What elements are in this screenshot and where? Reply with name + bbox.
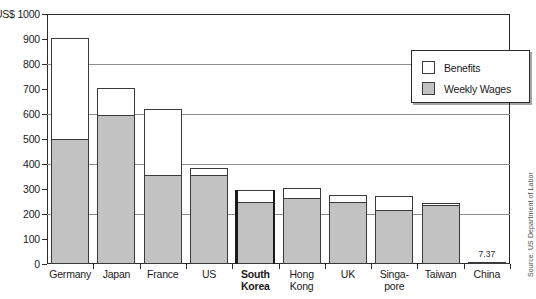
x-axis-label-hong-kong: HongKong: [279, 269, 325, 292]
x-axis-label-line: South: [232, 269, 278, 281]
x-axis-label-line: Korea: [232, 281, 278, 293]
bar-japan: [97, 88, 135, 264]
bar-highlight-edge-left: [235, 190, 237, 265]
bar-segment-weekly-wages: [283, 198, 321, 264]
bar-segment-benefits: [375, 196, 413, 210]
legend-item-weekly-wages: Weekly Wages: [422, 78, 529, 99]
legend-label-benefits: Benefits: [444, 62, 480, 74]
y-axis-label-600: 600: [23, 108, 40, 120]
legend-swatch-benefits-icon: [422, 61, 435, 74]
x-axis-label-uk: UK: [325, 269, 371, 281]
y-axis-label-100: 100: [23, 233, 40, 245]
bar-segment-benefits: [144, 109, 182, 175]
bar-segment-benefits: [97, 88, 135, 116]
bar-us: [190, 168, 228, 264]
chart-container: 0100200300400500600700800900US$ 1000 7.3…: [0, 0, 536, 299]
x-axis-label-japan: Japan: [93, 269, 139, 281]
bar-segment-weekly-wages: [329, 202, 367, 265]
bar-segment-benefits: [51, 38, 89, 139]
y-axis-label-300: 300: [23, 183, 40, 195]
x-axis-label-france: France: [140, 269, 186, 281]
y-axis-label-500: 500: [23, 133, 40, 145]
x-axis-label-line: Japan: [93, 269, 139, 281]
x-axis-label-us: US: [186, 269, 232, 281]
bar-segment-weekly-wages: [51, 139, 89, 264]
bar-segment-weekly-wages: [422, 205, 460, 264]
y-axis-label-0: 0: [34, 258, 40, 270]
x-axis-label-china: China: [464, 269, 510, 281]
y-axis-label-1000: US$ 1000: [0, 8, 40, 20]
bar-segment-weekly-wages: [468, 262, 506, 264]
bar-segment-benefits: [329, 195, 367, 202]
x-axis-label-line: Germany: [47, 269, 93, 281]
bar-segment-weekly-wages: [236, 202, 274, 265]
bar-singapore: [375, 196, 413, 264]
bar-segment-weekly-wages: [97, 115, 135, 264]
data-label-china: 7.37: [479, 249, 496, 259]
bar-germany: [51, 38, 89, 264]
bar-uk: [329, 195, 367, 265]
x-tick-9: [510, 264, 511, 269]
x-axis-label-germany: Germany: [47, 269, 93, 281]
y-axis-label-400: 400: [23, 158, 40, 170]
bar-segment-weekly-wages: [375, 210, 413, 265]
plot-area: 0100200300400500600700800900US$ 1000 7.3…: [47, 14, 510, 264]
bar-segment-weekly-wages: [190, 175, 228, 265]
x-axis-label-line: Singa-: [371, 269, 417, 281]
x-axis-label-line: US: [186, 269, 232, 281]
y-axis-label-700: 700: [23, 83, 40, 95]
bar-highlight-edge-right: [273, 190, 275, 265]
x-axis-label-south-korea: SouthKorea: [232, 269, 278, 292]
x-axis-label-line: France: [140, 269, 186, 281]
chart-legend: Benefits Weekly Wages: [411, 50, 530, 103]
legend-swatch-weekly-wages-icon: [422, 82, 435, 95]
x-axis-label-singapore: Singa-pore: [371, 269, 417, 292]
y-tick-0: [42, 264, 47, 265]
bar-segment-benefits: [283, 188, 321, 198]
bar-segment-weekly-wages: [144, 175, 182, 264]
bar-segment-benefits: [236, 190, 274, 202]
y-axis-label-900: 900: [23, 33, 40, 45]
y-axis-label-200: 200: [23, 208, 40, 220]
bar-china: [468, 262, 506, 264]
bar-south-korea: [236, 190, 274, 265]
legend-item-benefits: Benefits: [422, 57, 529, 78]
bar-hong-kong: [283, 188, 321, 264]
legend-label-weekly-wages: Weekly Wages: [444, 83, 511, 95]
x-axis-label-line: UK: [325, 269, 371, 281]
x-axis-label-line: pore: [371, 281, 417, 293]
x-axis-label-line: China: [464, 269, 510, 281]
x-axis-label-line: Hong: [279, 269, 325, 281]
bar-france: [144, 109, 182, 264]
y-axis-label-800: 800: [23, 58, 40, 70]
x-axis-label-line: Kong: [279, 281, 325, 293]
source-note: Source: US Department of Labor: [527, 172, 534, 277]
x-axis-label-taiwan: Taiwan: [417, 269, 463, 281]
bar-segment-benefits: [190, 168, 228, 175]
x-axis-label-line: Taiwan: [417, 269, 463, 281]
bar-taiwan: [422, 203, 460, 264]
